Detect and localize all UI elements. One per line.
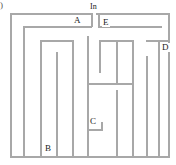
wall-e-left: [98, 13, 100, 27]
maze-figure: ) AEDCB In: [0, 0, 176, 165]
wall-col-2: [132, 40, 134, 156]
maze-label-e: E: [102, 18, 110, 27]
wall-u-top: [40, 40, 73, 42]
wall-c-box-v: [101, 122, 103, 130]
wall-a-right: [91, 13, 93, 27]
maze-label-d: D: [161, 43, 170, 52]
wall-col-3: [146, 56, 148, 156]
maze-label-b: B: [44, 144, 52, 153]
maze-label-c: C: [89, 117, 97, 126]
wall-center-v: [87, 36, 89, 156]
maze-label-a: A: [73, 16, 82, 25]
wall-d-left: [99, 40, 101, 73]
wall-col-1: [116, 90, 118, 156]
outer-right: [168, 13, 170, 158]
outer-bottom: [10, 156, 170, 158]
wall-u-left: [40, 40, 42, 156]
wall-u-right: [72, 40, 74, 156]
wall-col-4: [158, 40, 160, 156]
outer-top-right: [96, 13, 170, 15]
wall-a-horiz: [23, 26, 92, 28]
wall-h-right-v: [116, 40, 118, 84]
figure-corner-mark: ): [0, 1, 3, 10]
wall-h-cross: [87, 83, 133, 85]
outer-left: [10, 13, 12, 158]
entrance-label: In: [89, 3, 98, 11]
wall-b-v: [56, 104, 58, 156]
wall-a-left: [23, 26, 25, 156]
